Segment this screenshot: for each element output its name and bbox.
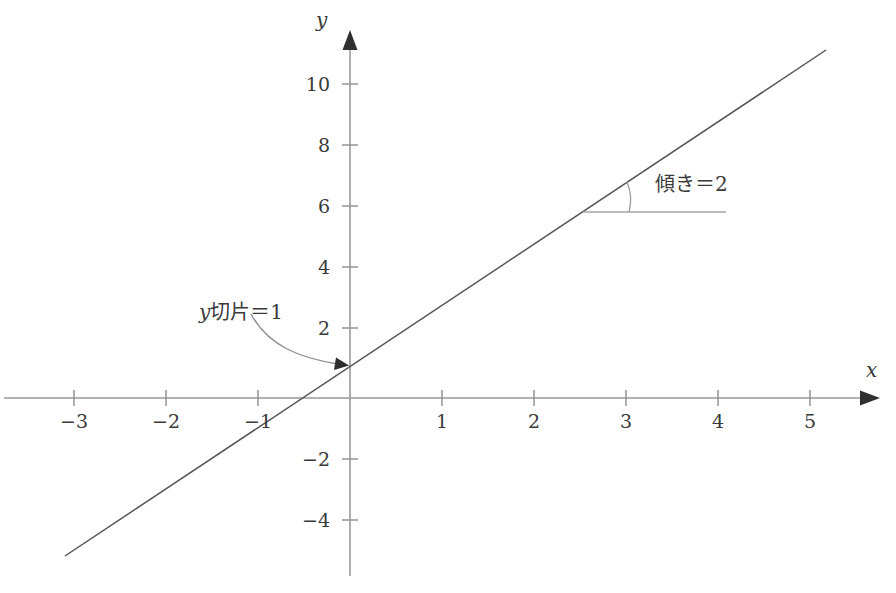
x-axis-label: x [866, 358, 877, 382]
slope-angle-arc [627, 182, 631, 212]
y-tick-label: 8 [282, 134, 330, 156]
y-tick-label: −4 [282, 509, 330, 531]
x-tick-label: 1 [422, 410, 462, 432]
y-tick-label: 2 [282, 317, 330, 339]
y-intercept-annotation-text: 切片＝1 [210, 300, 283, 324]
x-axis-arrowhead [860, 391, 880, 406]
x-tick-label: 3 [606, 410, 646, 432]
slope-annotation-label: 傾き＝2 [655, 168, 728, 197]
y-intercept-annotation-variable: y [199, 300, 210, 324]
y-tick-label: 10 [282, 73, 330, 95]
axes-group [4, 30, 880, 576]
y-tick-label: 4 [282, 256, 330, 278]
line-y-equals-2x-plus-1 [65, 50, 826, 556]
graph-figure: −3 −2 −1 1 2 3 4 5 10 8 6 4 2 −2 −4 y x … [0, 0, 896, 593]
x-tick-label: 4 [698, 410, 738, 432]
plot-canvas [0, 0, 896, 593]
x-tick-label: 2 [514, 410, 554, 432]
y-axis-arrowhead [343, 30, 358, 50]
x-tick-label: 5 [790, 410, 830, 432]
slope-annotation-text: 傾き＝2 [655, 172, 728, 196]
data-series-line [65, 50, 826, 556]
x-tick-label: −2 [146, 410, 186, 432]
x-tick-label: −3 [54, 410, 94, 432]
y-axis-label: y [316, 8, 327, 32]
x-tick-label: −1 [238, 410, 278, 432]
y-tick-label: −2 [282, 448, 330, 470]
y-intercept-annotation-label: y切片＝1 [199, 296, 283, 325]
y-tick-label: 6 [282, 195, 330, 217]
